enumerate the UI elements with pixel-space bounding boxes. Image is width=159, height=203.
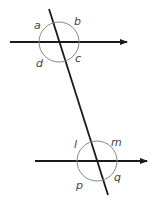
label-b: b: [74, 15, 81, 28]
label-m: m: [111, 136, 122, 149]
diagram: a b c d l m p q: [0, 0, 159, 203]
label-a: a: [34, 19, 41, 32]
label-c: c: [75, 52, 81, 65]
label-p: p: [75, 179, 83, 192]
label-d: d: [36, 57, 44, 70]
label-l: l: [74, 138, 77, 151]
label-q: q: [114, 171, 121, 184]
diagram-svg: a b c d l m p q: [0, 0, 159, 203]
